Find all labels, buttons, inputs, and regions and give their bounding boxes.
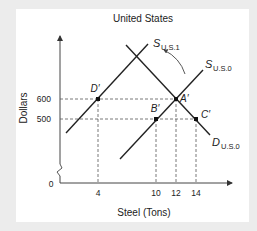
svg-text:D: D: [212, 136, 220, 148]
origin-label: 0: [49, 179, 54, 189]
y-tick-500: 500: [37, 114, 51, 124]
svg-text:S: S: [153, 37, 161, 49]
svg-text:U.S.0: U.S.0: [213, 64, 232, 73]
supply-curve-us-1: [66, 44, 148, 133]
point-c-prime: [194, 117, 198, 121]
y-tick-600: 600: [37, 94, 51, 104]
label-a-prime: A′: [179, 93, 190, 104]
label-c-prime: C′: [201, 109, 211, 120]
svg-text:S: S: [205, 58, 213, 70]
demand-curve-us-0: [126, 45, 210, 135]
label-s-us-1: S U.S.1: [153, 37, 180, 52]
point-b-prime: [154, 117, 158, 121]
x-tick-10: 10: [151, 188, 161, 198]
label-d-us-0: D U.S.0: [212, 136, 240, 151]
y-axis: [57, 36, 62, 183]
x-tick-4: 4: [96, 188, 101, 198]
label-b-prime: B′: [151, 103, 161, 114]
shift-arrow-icon: [164, 50, 185, 74]
x-tick-12: 12: [171, 188, 181, 198]
axis-break-icon: [57, 164, 62, 176]
chart-title: United States: [113, 13, 173, 24]
x-tick-14: 14: [191, 188, 201, 198]
y-axis-label: Dollars: [18, 92, 29, 123]
point-a-prime: [174, 97, 178, 101]
svg-text:U.S.1: U.S.1: [161, 43, 180, 52]
label-d-prime: D′: [90, 83, 100, 94]
guide-lines: [60, 99, 196, 183]
label-s-us-0: S U.S.0: [205, 58, 232, 73]
supply-demand-chart: United States Dollars 600 500 0 4 10 12 …: [0, 0, 257, 231]
svg-text:U.S.0: U.S.0: [221, 142, 240, 151]
x-axis-label: Steel (Tons): [117, 207, 170, 218]
point-d-prime: [96, 97, 100, 101]
